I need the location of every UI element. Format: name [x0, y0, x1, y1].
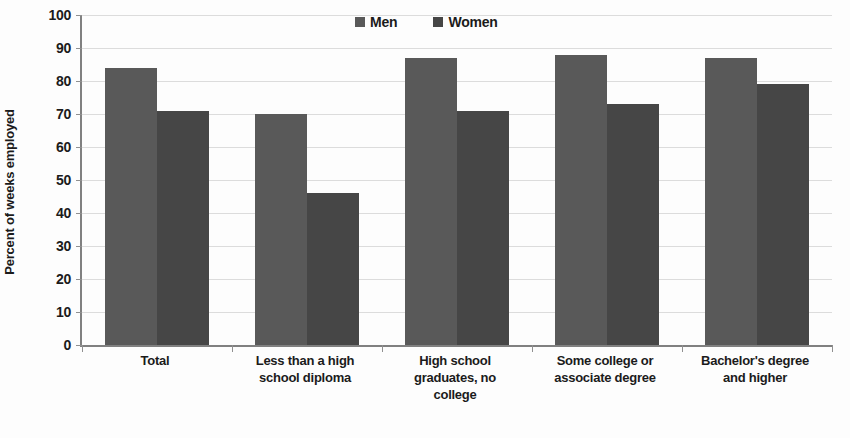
x-axis-category-label-line: Some college or: [530, 352, 680, 369]
bar-women-4: [757, 84, 809, 345]
x-axis-tick: [532, 345, 533, 352]
legend-swatch-men-icon: [355, 17, 365, 27]
y-axis-tick-label: 0: [31, 337, 71, 353]
x-axis-category-label-line: Total: [80, 352, 230, 369]
bar-women-1: [307, 193, 359, 345]
x-axis-category-label: Less than a highschool diploma: [230, 352, 380, 386]
bar-women-3: [607, 104, 659, 345]
y-axis-tick-label: 50: [31, 172, 71, 188]
x-axis-tick: [232, 345, 233, 352]
x-axis-category-label-line: Less than a high: [230, 352, 380, 369]
bar-men-3: [555, 55, 607, 345]
bar-chart: Percent of weeks employed 01020304050607…: [0, 0, 850, 438]
x-axis-category-label-line: High school: [380, 352, 530, 369]
x-axis-category-label-line: college: [380, 386, 530, 403]
x-axis-category-label: Bachelor's degreeand higher: [680, 352, 830, 386]
legend-label-women: Women: [448, 14, 497, 30]
y-axis-tick-label: 40: [31, 205, 71, 221]
y-axis-tick-label: 10: [31, 304, 71, 320]
y-axis-tick-label: 60: [31, 139, 71, 155]
y-axis-tick-label: 80: [31, 73, 71, 89]
x-axis-category-label-line: school diploma: [230, 369, 380, 386]
legend-entry-men[interactable]: Men: [355, 14, 397, 30]
bar-men-0: [105, 68, 157, 345]
x-axis-category-label: High schoolgraduates, nocollege: [380, 352, 530, 403]
y-axis-tick-labels: 0102030405060708090100: [26, 0, 71, 438]
x-axis-category-label-line: Bachelor's degree: [680, 352, 830, 369]
x-axis-category-label-line: associate degree: [530, 369, 680, 386]
x-axis-category-label-line: graduates, no: [380, 369, 530, 386]
x-axis-tick: [832, 345, 833, 352]
x-axis-category-label: Some college orassociate degree: [530, 352, 680, 386]
y-axis-tick-label: 30: [31, 238, 71, 254]
x-axis-category-label-line: and higher: [680, 369, 830, 386]
bar-women-2: [457, 111, 509, 345]
y-axis-tick-label: 70: [31, 106, 71, 122]
chart-legend: Men Women: [355, 14, 498, 30]
bar-men-4: [705, 58, 757, 345]
x-axis-tick: [82, 345, 83, 352]
x-axis-category-labels: TotalLess than a highschool diplomaHigh …: [80, 352, 832, 432]
y-axis-title: Percent of weeks employed: [2, 17, 24, 367]
x-axis-tick: [382, 345, 383, 352]
bar-men-1: [255, 114, 307, 345]
bar-women-0: [157, 111, 209, 345]
legend-swatch-women-icon: [433, 17, 443, 27]
bar-men-2: [405, 58, 457, 345]
x-axis-category-label: Total: [80, 352, 230, 369]
y-axis-tick-label: 20: [31, 271, 71, 287]
x-axis-tick: [682, 345, 683, 352]
y-axis-tick-label: 90: [31, 40, 71, 56]
y-axis-tick-label: 100: [31, 7, 71, 23]
legend-entry-women[interactable]: Women: [433, 14, 497, 30]
plot-area: [80, 15, 832, 347]
bars-layer: [82, 15, 832, 345]
legend-label-men: Men: [370, 14, 397, 30]
